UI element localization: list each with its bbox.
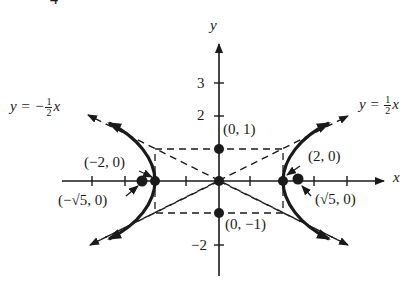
label-focus-right: (√5, 0) (315, 192, 356, 207)
fraction: 12 (45, 97, 52, 118)
label-vertex-left: (−2, 0) (84, 155, 125, 170)
point-co-vertex-top (214, 144, 224, 154)
point-co-vertex-bottom (214, 208, 224, 218)
hyperbola-graph (0, 0, 419, 289)
label-focus-left: (−√5, 0) (58, 193, 107, 208)
hyperbola-figure: 4 y x 3 2 −2 y = −12x y = 12x (0, 1) (0,… (0, 0, 419, 289)
label-vertex-right: (2, 0) (308, 149, 341, 164)
branch-left (109, 123, 155, 181)
y-axis-label: y (210, 18, 217, 33)
asymptote-left-prefix: y = − (10, 98, 44, 114)
point-focus-right (293, 174, 304, 185)
y-tick-2: 2 (197, 108, 205, 123)
point-vertex-left (150, 176, 160, 186)
label-co-vertex-top: (0, 1) (223, 122, 256, 137)
x-axis-label: x (393, 170, 400, 185)
point-vertex-right (278, 176, 288, 186)
label-co-vertex-bottom: (0, −1) (225, 217, 266, 232)
asymptote-right-prefix: y = (359, 96, 383, 112)
y-tick-neg2: −2 (191, 238, 207, 253)
y-axis (214, 44, 224, 276)
asymptote-left-label: y = −12x (10, 97, 60, 118)
figure-number: 4 (50, 0, 58, 7)
fraction: 12 (384, 95, 391, 116)
point-focus-left (137, 176, 148, 187)
y-tick-3: 3 (197, 76, 205, 91)
asymptote-right-label: y = 12x (359, 95, 399, 116)
point-origin (214, 176, 224, 186)
